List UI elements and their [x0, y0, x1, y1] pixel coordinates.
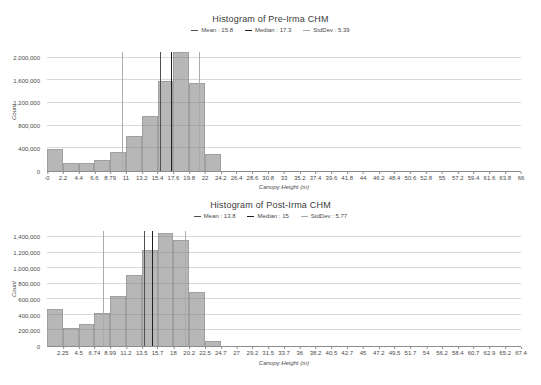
x-tick-label: 4.4 [74, 172, 82, 181]
y-tick-label: 2,000,000 [13, 55, 40, 61]
x-axis-title: Canopy Height (m) [47, 184, 521, 190]
mean-line-icon [191, 30, 198, 31]
legend-item-mean: Mean : 15.8 [191, 27, 233, 33]
x-tick-label: 59.4 [468, 172, 480, 181]
x-tick-label: 61.6 [484, 172, 496, 181]
chart-legend: Mean : 13.8 Median : 15 StdDev : 5.77 [0, 213, 541, 219]
y-gridline [47, 283, 521, 284]
y-tick-label: 600,000 [18, 297, 40, 303]
x-tick-label: 17.6 [168, 172, 180, 181]
y-gridline [47, 57, 521, 58]
y-tick-label: 1,200,000 [13, 250, 40, 256]
y-tick-label: 200,000 [18, 328, 40, 334]
x-tick-label: 56.2 [436, 347, 448, 356]
x-tick-label: 26.4 [231, 172, 243, 181]
stddev-line-icon [303, 30, 310, 31]
chart-title: Histogram of Post-Irma CHM [0, 200, 541, 210]
histogram-bar [173, 52, 189, 171]
y-gridline [47, 125, 521, 126]
x-tick-label: 27 [233, 347, 240, 356]
x-tick-label: 51.7 [405, 347, 417, 356]
x-tick-label: 2.25 [57, 347, 69, 356]
y-tick-label: 1,000,000 [13, 266, 40, 272]
y-gridline [47, 252, 521, 253]
y-tick-label: 1,600,000 [13, 78, 40, 84]
x-tick-label: 31.5 [262, 347, 274, 356]
y-gridline [47, 102, 521, 103]
x-tick-label: 63.8 [499, 172, 511, 181]
x-tick-label: 47.2 [373, 347, 385, 356]
chart-title: Histogram of Pre-Irma CHM [0, 14, 541, 24]
histogram-bar [47, 149, 63, 171]
x-tick-label: 67.4 [515, 347, 527, 356]
histogram-bar [94, 160, 110, 171]
x-tick-label: 52.8 [420, 172, 432, 181]
chart-legend: Mean : 15.8 Median : 17.3 StdDev : 5.39 [0, 27, 541, 33]
x-tick-label: 46.2 [373, 172, 385, 181]
report-page: Histogram of Pre-Irma CHM Mean : 15.8 Me… [0, 0, 541, 385]
histogram-bar [189, 292, 205, 346]
x-tick-label: 8.99 [104, 347, 116, 356]
x-axis-ticks: 2.254.56.748.9911.213.515.71820.222.524.… [47, 347, 521, 358]
x-tick-label: 20.2 [183, 347, 195, 356]
x-tick-label: 36 [296, 347, 303, 356]
x-tick-label: 37.4 [310, 172, 322, 181]
x-tick-label: 41.8 [341, 172, 353, 181]
legend-label-mean: Mean : 15.8 [201, 27, 233, 33]
x-tick-label: 58.4 [452, 347, 464, 356]
y-gridline [47, 298, 521, 299]
histogram-bar [205, 341, 221, 346]
stddev-low-line [122, 52, 123, 171]
stddev-low-line [103, 231, 104, 346]
x-tick-label: 2.2 [59, 172, 67, 181]
y-gridline [47, 79, 521, 80]
x-tick-label: 60.7 [468, 347, 480, 356]
y-gridline [47, 267, 521, 268]
x-tick-label: 55 [439, 172, 446, 181]
x-tick-label: 11 [123, 172, 129, 181]
y-gridline [47, 236, 521, 237]
y-tick-label: 0 [37, 169, 40, 175]
x-tick-label: 28.6 [247, 172, 259, 181]
histogram-bar [110, 152, 126, 171]
plot-area [47, 231, 521, 347]
x-tick-label: 66 [518, 172, 525, 181]
plot-row: Count 0200,000400,000600,000800,0001,000… [0, 231, 541, 347]
y-gridline [47, 147, 521, 148]
median-line [152, 231, 153, 346]
x-tick-label: 35.2 [294, 172, 306, 181]
x-tick-label: 39.6 [326, 172, 338, 181]
legend-label-mean: Mean : 13.8 [204, 213, 236, 219]
legend-item-stddev: StdDev : 5.77 [301, 213, 347, 219]
y-tick-label: 800,000 [18, 281, 40, 287]
x-tick-label: 13.2 [136, 172, 148, 181]
y-tick-label: 400,000 [18, 146, 40, 152]
plot-area [47, 52, 521, 172]
x-tick-label: 15.4 [152, 172, 164, 181]
y-tick-label: 1,400,000 [13, 234, 40, 240]
x-tick-label: 6.6 [90, 172, 98, 181]
post-irma-histogram: Histogram of Post-Irma CHM Mean : 13.8 M… [0, 200, 541, 384]
legend-item-stddev: StdDev : 5.39 [303, 27, 349, 33]
x-tick-label: 29.2 [247, 347, 259, 356]
x-tick-label: 49.5 [389, 347, 401, 356]
x-tick-label: 57.2 [452, 172, 464, 181]
x-tick-label: 33.7 [278, 347, 290, 356]
histogram-bar [205, 154, 221, 171]
histogram-bar [126, 136, 142, 171]
histogram-bar [126, 275, 142, 346]
histogram-bar [110, 296, 126, 346]
x-tick-label: 24.7 [215, 347, 227, 356]
plot-row: Count 0400,000800,0001,200,0001,600,0002… [0, 52, 541, 172]
stddev-high-line [199, 52, 200, 171]
legend-item-mean: Mean : 13.8 [194, 213, 236, 219]
x-tick-label: 40.5 [326, 347, 338, 356]
x-tick-label: 62.9 [484, 347, 496, 356]
x-tick-label: 8.79 [104, 172, 116, 181]
x-tick-label: 18 [170, 347, 177, 356]
x-tick-label: 45 [360, 347, 367, 356]
y-gridline [47, 329, 521, 330]
x-tick-label: 30.8 [262, 172, 274, 181]
x-tick-label: 50.6 [405, 172, 417, 181]
y-tick-label: 800,000 [18, 123, 40, 129]
